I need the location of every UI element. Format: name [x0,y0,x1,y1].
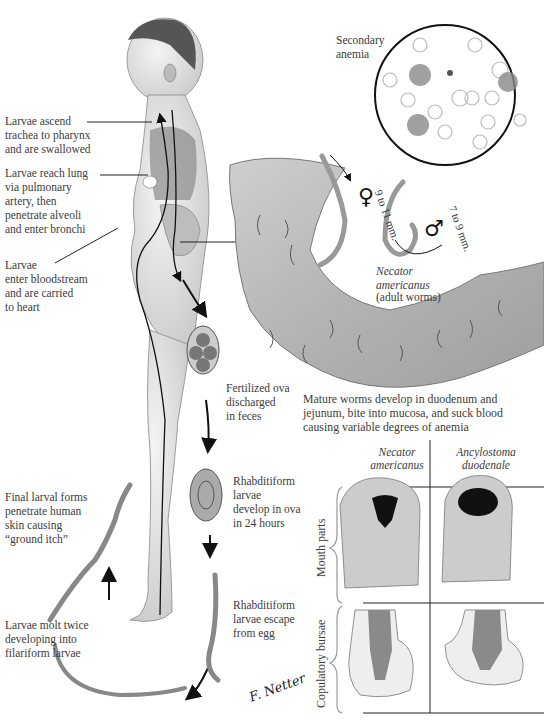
label-final-larval: Final larval forms penetrate human skin … [5,490,87,546]
label-rhabditiform-develop: Rhabditiform larvae develop in ova in 24… [233,474,301,530]
label-larvae-molt: Larvae molt twice developing into filari… [5,618,89,660]
table-column-ancylostoma: Ancylostoma duodenale [436,446,536,472]
child-figure [127,18,209,621]
label-adult-worms: (adult worms) [376,290,441,304]
label-mature-worms: Mature worms develop in duodenum and jej… [303,392,503,434]
label-species-adult: Necator americanus [376,264,430,292]
label-secondary-anemia: Secondary anemia [336,33,385,61]
table-row-copulatory-bursae: Copulatory bursae [314,620,329,708]
label-larvae-reach-lung: Larvae reach lung via pulmonary artery, … [5,166,88,236]
label-fertilized-ova: Fertilized ova discharged in feces [226,381,290,423]
table-row-mouth-parts: Mouth parts [314,519,329,577]
label-larvae-enter-bloodstream: Larvae enter bloodstream and are carried… [5,258,88,314]
male-symbol-icon: ♂ [424,216,444,241]
table-column-necator: Necator americanus [365,446,429,472]
female-symbol-icon: ♀ [358,184,374,209]
label-rhabditiform-escape: Rhabditiform larvae escape from egg [233,598,295,640]
label-larvae-ascend: Larvae ascend trachea to pharynx and are… [5,114,91,156]
